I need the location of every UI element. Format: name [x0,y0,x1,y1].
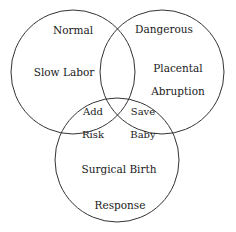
bottom-circle [55,98,179,222]
venn-diagram: Normal Dangerous Slow Labor Placental Ab… [0,0,236,232]
right-circle [100,10,224,134]
venn-circles-group [0,0,236,232]
left-circle [11,10,135,134]
